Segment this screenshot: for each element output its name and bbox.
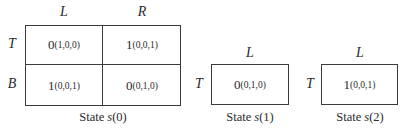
row-label-T: T [191, 76, 207, 92]
state-caption-s0: State s(0) [63, 110, 143, 125]
matrix-divider-vertical [102, 25, 103, 106]
column-label-R: R [122, 4, 162, 20]
transition-probabilities: (0,0,1) [350, 80, 375, 90]
caption-state-index: (0) [112, 110, 127, 124]
transition-probabilities: (0,0,1) [55, 81, 80, 91]
transition-probabilities: (0,0,1) [133, 40, 158, 50]
caption-prefix: State [79, 110, 107, 124]
caption-prefix: State [336, 110, 364, 124]
column-label-L: L [340, 45, 380, 61]
cell-T-L: 0(1,0,0) [26, 26, 102, 64]
caption-state-index: (2) [369, 110, 384, 124]
cell-B-R: 0(0,1,0) [104, 66, 180, 105]
cell-B-L: 1(0,0,1) [26, 66, 102, 105]
cell-T-L: 1(0,0,1) [322, 65, 397, 104]
row-label-T: T [4, 36, 20, 52]
row-label-T: T [302, 76, 318, 92]
column-label-L: L [230, 45, 270, 61]
cell-T-R: 1(0,0,1) [104, 26, 180, 64]
cell-T-L: 0(0,1,0) [212, 65, 288, 104]
transition-probabilities: (1,0,0) [55, 40, 80, 50]
state-caption-s2: State s(2) [320, 110, 400, 125]
transition-probabilities: (0,1,0) [133, 81, 158, 91]
row-label-B: B [4, 76, 20, 92]
caption-state-index: (1) [259, 110, 274, 124]
transition-probabilities: (0,1,0) [241, 80, 266, 90]
caption-prefix: State [226, 110, 254, 124]
matrix-divider-horizontal [25, 64, 181, 65]
column-label-L: L [44, 4, 84, 20]
state-caption-s1: State s(1) [210, 110, 290, 125]
